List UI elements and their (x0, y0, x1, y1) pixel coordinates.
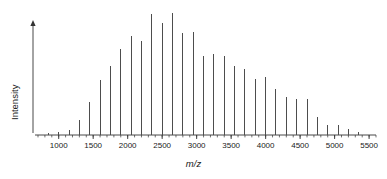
plot-area (0, 0, 387, 179)
mass-spectrum-figure: Intensity m/z 10001500200025003000350040… (0, 0, 387, 179)
plot-canvas (0, 0, 387, 179)
peak-series (48, 13, 358, 135)
x-axis-label-text: m/z (186, 158, 201, 169)
y-axis-arrowhead (30, 20, 35, 26)
x-axis-tick-label: 5500 (349, 141, 387, 150)
x-axis-label: m/z (0, 158, 387, 169)
